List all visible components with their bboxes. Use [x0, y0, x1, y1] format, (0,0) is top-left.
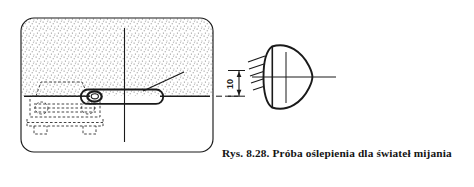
- headlamp-marker-inner: [91, 94, 98, 99]
- observer-headlamp: [248, 45, 336, 109]
- figure-container: 10 Rys. 8.28. Próba oślepienia dla świat…: [0, 0, 474, 187]
- dimension-arrow-down: [237, 90, 242, 96]
- test-scene-panel: [18, 14, 218, 152]
- dimension-arrow-up: [237, 72, 242, 78]
- dimension-10: 10: [216, 71, 245, 97]
- figure-caption: Rys. 8.28. Próba oślepienia dla świateł …: [222, 146, 472, 160]
- panel-stipple-fill: [18, 14, 218, 96]
- dimension-value: 10: [225, 79, 235, 89]
